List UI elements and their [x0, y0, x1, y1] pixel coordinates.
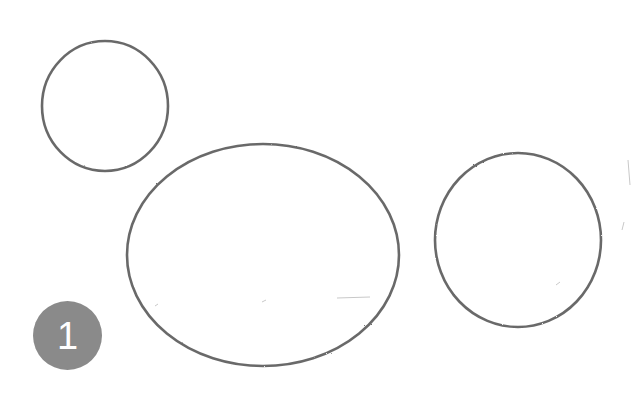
right-circle	[435, 153, 601, 327]
large-ellipse	[127, 144, 399, 366]
step-number: 1	[57, 317, 78, 355]
step-number-badge: 1	[33, 301, 102, 370]
small-circle	[42, 41, 168, 171]
stray-marks	[155, 160, 630, 306]
